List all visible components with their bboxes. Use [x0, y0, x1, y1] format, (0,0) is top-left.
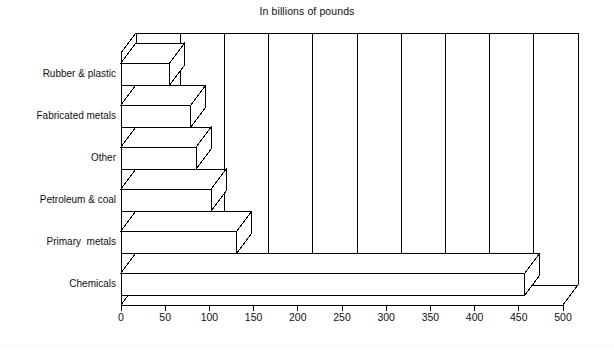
- chart-canvas: In billions of pounds Rubber & plasticFa…: [0, 0, 614, 351]
- x-axis-tick-label: 250: [333, 311, 351, 323]
- x-axis-tick-label: 400: [466, 311, 484, 323]
- x-axis-tick-label: 300: [377, 311, 395, 323]
- page-edge: [0, 345, 614, 348]
- x-axis-tick-label: 0: [118, 311, 124, 323]
- x-axis-tick-label: 50: [159, 311, 171, 323]
- x-axis-tick-label: 500: [554, 311, 572, 323]
- x-axis-tick-label: 200: [289, 311, 307, 323]
- x-axis-tick-label: 100: [201, 311, 219, 323]
- x-axis-tick-label: 350: [422, 311, 440, 323]
- x-axis-tick-label: 150: [245, 311, 263, 323]
- x-axis-tick-label: 450: [510, 311, 528, 323]
- x-axis-labels: 050100150200250300350400450500: [0, 0, 614, 351]
